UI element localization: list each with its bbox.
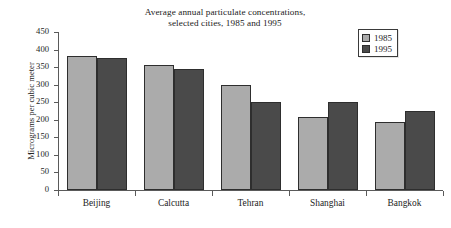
y-axis-line (58, 32, 59, 190)
bar[interactable] (375, 122, 405, 190)
y-axis-tick: 400 (54, 50, 58, 51)
bar[interactable] (174, 69, 204, 190)
x-axis-tick (135, 191, 136, 196)
bar[interactable] (67, 56, 97, 190)
x-axis-tick (366, 191, 367, 196)
x-axis-tick (58, 191, 59, 196)
bar-group (221, 32, 281, 190)
y-axis-tick: 450 (54, 32, 58, 33)
bar[interactable] (97, 58, 127, 190)
chart-legend: 19851995 (358, 29, 398, 57)
y-axis-tick-label: 200 (36, 114, 49, 124)
x-axis-tick (289, 191, 290, 196)
y-axis-tick: 300 (54, 85, 58, 86)
y-axis-tick-label: 300 (36, 79, 49, 89)
y-axis-tick: 350 (54, 67, 58, 68)
x-axis-tick (443, 191, 444, 196)
y-axis-tick-label: 100 (36, 149, 49, 159)
y-axis-title: Micrograms per cubic meter (26, 31, 36, 191)
y-axis-tick-label: 450 (36, 26, 49, 36)
legend-swatch-icon (362, 34, 370, 42)
y-axis-tick: 150 (54, 137, 58, 138)
y-axis-tick-label: 50 (40, 166, 49, 176)
chart-title: Average annual particulate concentration… (95, 7, 355, 29)
y-axis-tick-label: 400 (36, 44, 49, 54)
bar-group (144, 32, 204, 190)
y-axis-tick: 200 (54, 120, 58, 121)
y-axis-tick: 50 (54, 172, 58, 173)
chart-title-line-1: Average annual particulate concentration… (95, 7, 355, 18)
bar[interactable] (144, 65, 174, 190)
y-axis-tick-label: 350 (36, 61, 49, 71)
x-axis-label: Bangkok (345, 198, 451, 208)
chart-figure: Average annual particulate concentration… (0, 0, 451, 228)
bar[interactable] (328, 102, 358, 190)
bar[interactable] (221, 85, 251, 190)
bar[interactable] (251, 102, 281, 190)
legend-swatch-icon (362, 45, 370, 53)
x-axis-tick (212, 191, 213, 196)
y-axis-tick: 250 (54, 102, 58, 103)
legend-item[interactable]: 1995 (362, 43, 392, 54)
bar[interactable] (298, 117, 328, 190)
x-axis-line (58, 190, 443, 191)
legend-label: 1995 (374, 44, 392, 54)
y-axis-tick: 100 (54, 155, 58, 156)
bar[interactable] (405, 111, 435, 190)
y-axis-tick-label: 0 (45, 184, 49, 194)
bar-group (298, 32, 358, 190)
y-axis-tick-label: 150 (36, 131, 49, 141)
bar-group (67, 32, 127, 190)
y-axis-tick-label: 250 (36, 96, 49, 106)
legend-item[interactable]: 1985 (362, 32, 392, 43)
legend-label: 1985 (374, 33, 392, 43)
chart-title-line-2: selected cities, 1985 and 1995 (95, 18, 355, 29)
